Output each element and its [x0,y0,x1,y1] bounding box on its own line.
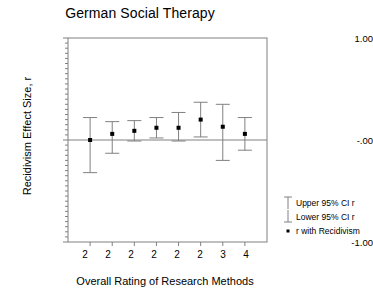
plot-area [0,0,373,301]
legend-item-upper-ci: Upper 95% CI r [280,196,360,210]
chart-container: German Social Therapy Recidivism Effect … [0,0,373,301]
data-point-group [194,102,208,137]
point-marker-icon [280,224,296,238]
data-point-marker [243,132,247,136]
error-bar-cap-icon [280,210,296,224]
data-point-marker [132,129,136,133]
data-point-group [127,121,141,141]
legend-label-point-marker: r with Recidivism [296,227,360,236]
data-point-group [216,104,230,160]
data-point-marker [177,126,181,130]
data-point-group [172,112,186,141]
data-point-marker [110,132,114,136]
data-point-marker [221,125,225,129]
data-point-group [238,118,252,151]
legend-label-upper-ci: Upper 95% CI r [296,199,355,208]
data-point-group [83,118,97,173]
data-series-layer [83,102,252,172]
legend-label-lower-ci: Lower 95% CI r [296,213,355,222]
data-point-group [105,122,119,154]
data-point-marker [154,126,158,130]
error-bar-cap-icon [280,196,296,210]
data-point-group [149,118,163,138]
legend-item-point-marker: r with Recidivism [280,224,360,238]
data-point-marker [199,118,203,122]
axes-layer [63,38,267,246]
data-point-marker [88,138,92,142]
legend-item-lower-ci: Lower 95% CI r [280,210,360,224]
chart-legend: Upper 95% CI r Lower 95% CI r r with Rec… [280,196,360,238]
